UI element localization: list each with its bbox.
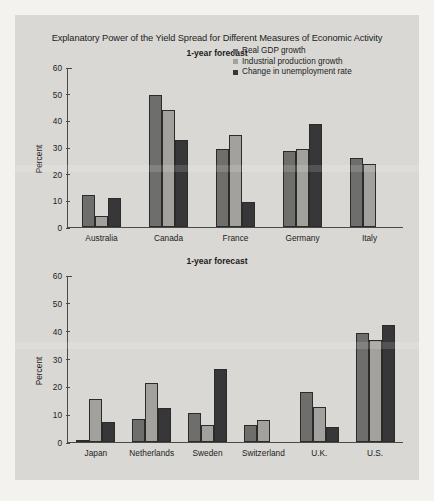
y-tick-label: 60 [53, 271, 62, 281]
x-tick-label: U.S. [367, 448, 383, 458]
y-tick-label: 20 [53, 382, 62, 392]
y-tick-label: 60 [53, 63, 62, 73]
bar [296, 149, 309, 227]
bar [188, 413, 201, 442]
bar [242, 202, 255, 227]
y-tick-mark [66, 228, 70, 229]
chart-top-plot-area: 0102030405060 AustraliaCanadaFranceGerma… [67, 68, 403, 228]
legend-item-real-gdp-growth: Real GDP growth [233, 46, 352, 57]
bar [350, 158, 363, 227]
bar-group: Netherlands [124, 276, 180, 442]
bar-group: Japan [68, 276, 124, 442]
chart-top-subtitle: 1-year forecast [15, 48, 419, 58]
bar-group: Switzerland [235, 276, 291, 442]
bar [145, 383, 158, 442]
x-tick-label: U.K. [311, 448, 327, 458]
y-tick-label: 0 [57, 223, 62, 233]
bar [89, 399, 102, 442]
bar [175, 140, 188, 227]
bar [244, 425, 257, 442]
y-tick-label: 10 [53, 410, 62, 420]
y-tick-label: 30 [53, 143, 62, 153]
x-tick-label: Australia [85, 233, 117, 243]
bar [216, 149, 229, 227]
y-tick-label: 50 [53, 90, 62, 100]
bar [214, 369, 227, 442]
x-tick-label: Netherlands [129, 448, 174, 458]
bar [382, 325, 395, 442]
bar [369, 340, 382, 442]
legend-label: Real GDP growth [242, 46, 306, 57]
bar [158, 408, 171, 442]
bar [283, 151, 296, 227]
x-tick-label: Italy [362, 233, 377, 243]
bar [132, 419, 145, 442]
bar [76, 440, 89, 442]
y-tick-label: 20 [53, 170, 62, 180]
bar-group: France [202, 68, 269, 227]
y-tick-label: 30 [53, 355, 62, 365]
figure-title: Explanatory Power of the Yield Spread fo… [15, 33, 419, 43]
bar [162, 110, 175, 227]
chart-top-y-axis-label: Percent [34, 145, 44, 174]
bar [300, 392, 313, 442]
bar-group: U.S. [347, 276, 403, 442]
bar-group: Sweden [180, 276, 236, 442]
chart-bottom-y-axis-label: Percent [34, 356, 44, 385]
bar [108, 198, 121, 227]
y-tick-label: 0 [57, 438, 62, 448]
x-tick-label: Switzerland [242, 448, 285, 458]
y-tick-label: 10 [53, 196, 62, 206]
bar [313, 407, 326, 442]
figure-page: Explanatory Power of the Yield Spread fo… [0, 0, 434, 501]
bar-group: Italy [336, 68, 403, 227]
bar [326, 427, 339, 442]
x-tick-label: France [223, 233, 249, 243]
bar [201, 425, 214, 442]
bar [257, 420, 270, 442]
chart-bottom-bar-groups: JapanNetherlandsSwedenSwitzerlandU.K.U.S… [68, 276, 403, 442]
bar [95, 216, 108, 227]
figure-background: Explanatory Power of the Yield Spread fo… [15, 15, 419, 480]
chart-top-x-axis [67, 227, 403, 228]
y-tick-label: 50 [53, 299, 62, 309]
y-tick-label: 40 [53, 327, 62, 337]
bar [363, 164, 376, 227]
chart-top: Percent 0102030405060 AustraliaCanadaFra… [15, 60, 419, 258]
chart-bottom-x-axis [67, 442, 403, 443]
bar-group: Australia [68, 68, 135, 227]
y-tick-mark [66, 443, 70, 444]
bar [149, 95, 162, 228]
x-tick-label: Germany [285, 233, 319, 243]
chart-bottom: Percent 0102030405060 JapanNetherlandsSw… [15, 268, 419, 473]
bar [309, 124, 322, 227]
bar-group: Germany [269, 68, 336, 227]
x-tick-label: Japan [85, 448, 108, 458]
bar [229, 135, 242, 227]
y-tick-label: 40 [53, 116, 62, 126]
bar [82, 195, 95, 227]
bar-group: Canada [135, 68, 202, 227]
figure-panel: Explanatory Power of the Yield Spread fo… [15, 15, 419, 480]
chart-bottom-plot-area: 0102030405060 JapanNetherlandsSwedenSwit… [67, 276, 403, 443]
x-tick-label: Sweden [193, 448, 223, 458]
x-tick-label: Canada [154, 233, 183, 243]
legend-swatch-icon [233, 49, 238, 54]
bar-group: U.K. [291, 276, 347, 442]
bar [356, 333, 369, 442]
chart-top-bar-groups: AustraliaCanadaFranceGermanyItaly [68, 68, 403, 227]
bar [102, 422, 115, 442]
